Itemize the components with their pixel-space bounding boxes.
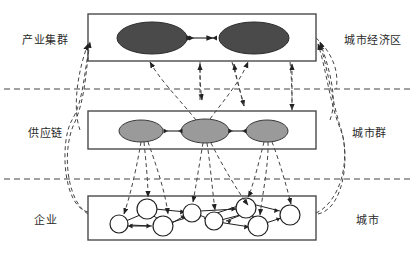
cluster-node-left [117,22,187,54]
cluster-node-right [219,22,289,54]
link-left-outer [67,42,90,214]
label-left-supply-chain: 供应链 [28,124,63,140]
link-divider-crossing [316,38,337,89]
label-right-city: 城市 [356,211,379,227]
label-left-enterprise: 企业 [34,211,57,227]
supply-chain-node-2 [181,119,229,143]
diagram-canvas: 产业集群 供应链 企业 城市经济区 城市群 城市 [0,0,416,256]
label-right-urban-economic-zone: 城市经济区 [344,31,402,47]
label-left-cluster: 产业集群 [22,31,68,47]
supply-chain-node-3 [246,120,288,142]
cross-tier-dashed-links-left [65,45,90,212]
supply-chain-node-1 [119,120,163,142]
label-right-urban-agglomeration: 城市群 [352,124,387,140]
